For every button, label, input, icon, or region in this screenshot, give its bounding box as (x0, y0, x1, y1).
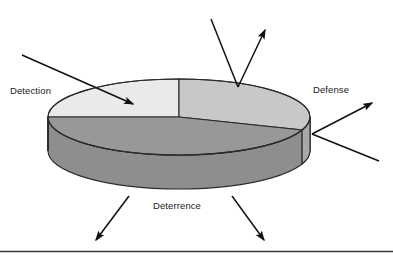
deterrence-left-outgoing-arrow (96, 196, 129, 240)
deterrence-right-outgoing-arrow (232, 196, 264, 240)
segment-label-defense: Defense (313, 84, 349, 95)
pie-3d-body (48, 79, 310, 189)
defense-top-incoming-arrow (211, 19, 238, 87)
slice-detection-top (48, 79, 179, 117)
defense-top-outgoing-arrow (238, 30, 265, 87)
segment-label-deterrence: Deterrence (153, 200, 201, 211)
diagram-figure: Detection Defense Deterrence (0, 0, 393, 262)
defense-side-incoming-arrow (312, 134, 379, 161)
defense-side-outgoing-arrow (312, 103, 372, 134)
pie-diagram-svg (0, 0, 393, 262)
segment-label-detection: Detection (10, 85, 51, 96)
